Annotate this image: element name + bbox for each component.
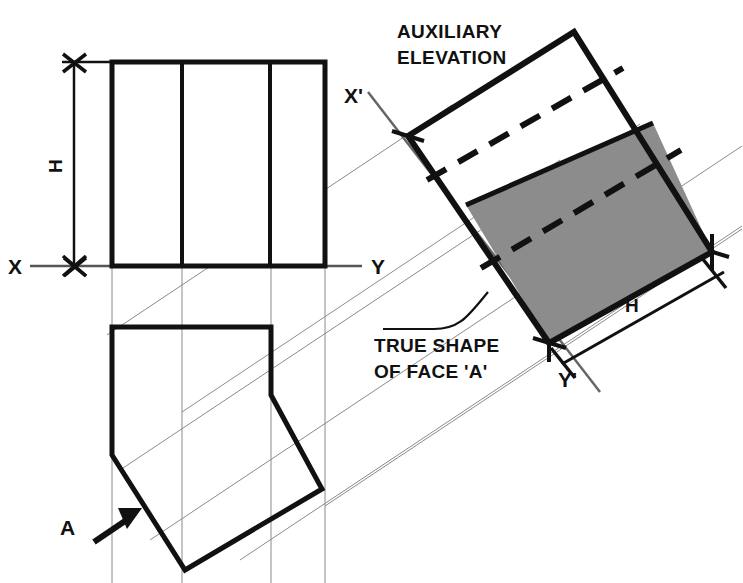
front-elevation-view bbox=[112, 62, 325, 266]
title-line-2: ELEVATION bbox=[397, 47, 507, 68]
face-arrow-shaft bbox=[94, 519, 128, 542]
true-shape-leader bbox=[383, 292, 488, 329]
title-line-1: AUXILIARY bbox=[397, 21, 502, 42]
auxiliary-height-label: H bbox=[625, 295, 639, 316]
label-y: Y bbox=[371, 255, 385, 278]
label-y-prime: Y' bbox=[558, 368, 577, 391]
true-shape-note-line-1: TRUE SHAPE bbox=[374, 335, 499, 356]
label-x: X bbox=[8, 255, 22, 278]
plan-view-outline bbox=[112, 327, 322, 570]
plan-view bbox=[112, 327, 322, 570]
face-direction-arrow bbox=[94, 508, 142, 542]
true-shape-leader-path bbox=[383, 292, 488, 329]
auxiliary-elevation-view bbox=[408, 32, 712, 343]
true-shape-note-line-2: OF FACE 'A' bbox=[374, 361, 488, 382]
technical-drawing-sheet: AUXILIARY ELEVATION TRUE SHAPE OF FACE '… bbox=[0, 0, 743, 583]
label-x-prime: X' bbox=[344, 84, 363, 107]
drawing-canvas: AUXILIARY ELEVATION TRUE SHAPE OF FACE '… bbox=[0, 0, 743, 583]
front-height-label: H bbox=[45, 159, 66, 173]
front-elevation-outline bbox=[112, 62, 325, 266]
face-arrow-label: A bbox=[60, 516, 75, 539]
